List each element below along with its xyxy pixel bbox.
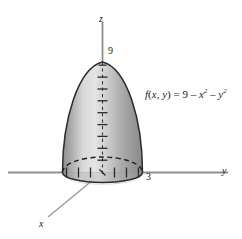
- z-axis-label: z: [99, 14, 103, 24]
- formula-minus-2: –: [207, 88, 218, 100]
- formula-term-y-exponent: 2: [223, 87, 227, 95]
- formula-equals: =: [171, 88, 183, 100]
- function-annotation: f(x, y) = 9 – x2 – y2: [145, 88, 227, 100]
- paraboloid-svg: [0, 0, 242, 239]
- paraboloid-figure: z y x 9 3 f(x, y) = 9 – x2 – y2: [0, 0, 242, 239]
- z-max-tick-label: 9: [108, 46, 113, 56]
- x-axis-label: x: [39, 219, 43, 229]
- y-axis-label: y: [222, 166, 226, 176]
- formula-minus-1: –: [188, 88, 199, 100]
- paraboloid-surface: [63, 62, 143, 173]
- y-max-tick-label: 3: [146, 172, 151, 182]
